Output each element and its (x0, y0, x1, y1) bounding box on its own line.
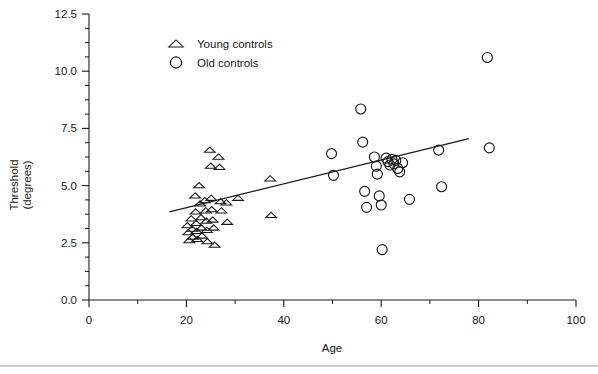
data-point-old-control (404, 194, 414, 204)
x-axis-title: Age (322, 342, 342, 354)
data-point-old-control (362, 202, 372, 212)
data-point-young-control (207, 217, 218, 222)
legend-label-young: Young controls (197, 38, 273, 50)
data-point-old-control (376, 200, 386, 210)
data-point-old-control (377, 245, 387, 255)
data-point-old-control (484, 143, 494, 153)
axes: 0.02.55.07.510.012.5 020406080100 (55, 8, 586, 326)
y-tick-label: 12.5 (55, 8, 77, 20)
y-axis-title-line1: Threshold (8, 159, 20, 210)
legend: Young controls Old controls (169, 38, 273, 69)
data-point-young-control (204, 147, 215, 152)
data-point-old-control (360, 186, 370, 196)
scatter-plot-figure: 0.02.55.07.510.012.5 020406080100 Young … (0, 0, 598, 374)
data-point-old-control (356, 104, 366, 114)
x-tick-label: 20 (180, 314, 193, 326)
circle-marker-icon (170, 57, 181, 68)
data-point-young-control (266, 212, 277, 217)
x-axis-tick-labels: 020406080100 (86, 314, 586, 326)
data-point-old-control (395, 167, 405, 177)
x-tick-label: 100 (566, 314, 585, 326)
y-tick-label: 7.5 (61, 122, 77, 134)
y-axis-tick-labels: 0.02.55.07.510.012.5 (55, 8, 77, 306)
data-point-young-control (194, 183, 205, 188)
x-tick-label: 0 (86, 314, 92, 326)
y-tick-label: 5.0 (61, 180, 77, 192)
data-point-old-control (358, 137, 368, 147)
data-point-young-control (190, 193, 201, 198)
data-point-old-control (374, 191, 384, 201)
x-tick-label: 40 (277, 314, 290, 326)
y-tick-label: 10.0 (55, 65, 77, 77)
data-point-young-control (265, 176, 276, 181)
y-tick-label: 0.0 (61, 294, 77, 306)
data-point-young-control (209, 242, 220, 247)
x-tick-label: 60 (375, 314, 388, 326)
legend-entry-young: Young controls (169, 38, 273, 50)
data-point-young-control (208, 225, 219, 230)
x-axis-ticks (89, 300, 576, 307)
y-tick-label: 2.5 (61, 237, 77, 249)
data-point-young-control (202, 239, 213, 244)
y-axis-title-line2: (degrees) (21, 160, 33, 209)
data-point-old-control (482, 52, 492, 62)
x-tick-label: 80 (472, 314, 485, 326)
legend-label-old: Old controls (197, 57, 259, 69)
regression-fit-line (169, 139, 469, 212)
legend-entry-old: Old controls (170, 57, 258, 69)
data-point-old-control (327, 149, 337, 159)
data-point-young-control (213, 154, 224, 159)
y-axis-title: Threshold (degrees) (8, 159, 33, 210)
data-point-young-control (222, 219, 233, 224)
data-points-layer (169, 52, 494, 254)
triangle-marker-icon (169, 40, 183, 47)
data-point-young-control (205, 163, 216, 168)
y-axis-ticks (82, 14, 89, 300)
data-point-old-control (437, 182, 447, 192)
